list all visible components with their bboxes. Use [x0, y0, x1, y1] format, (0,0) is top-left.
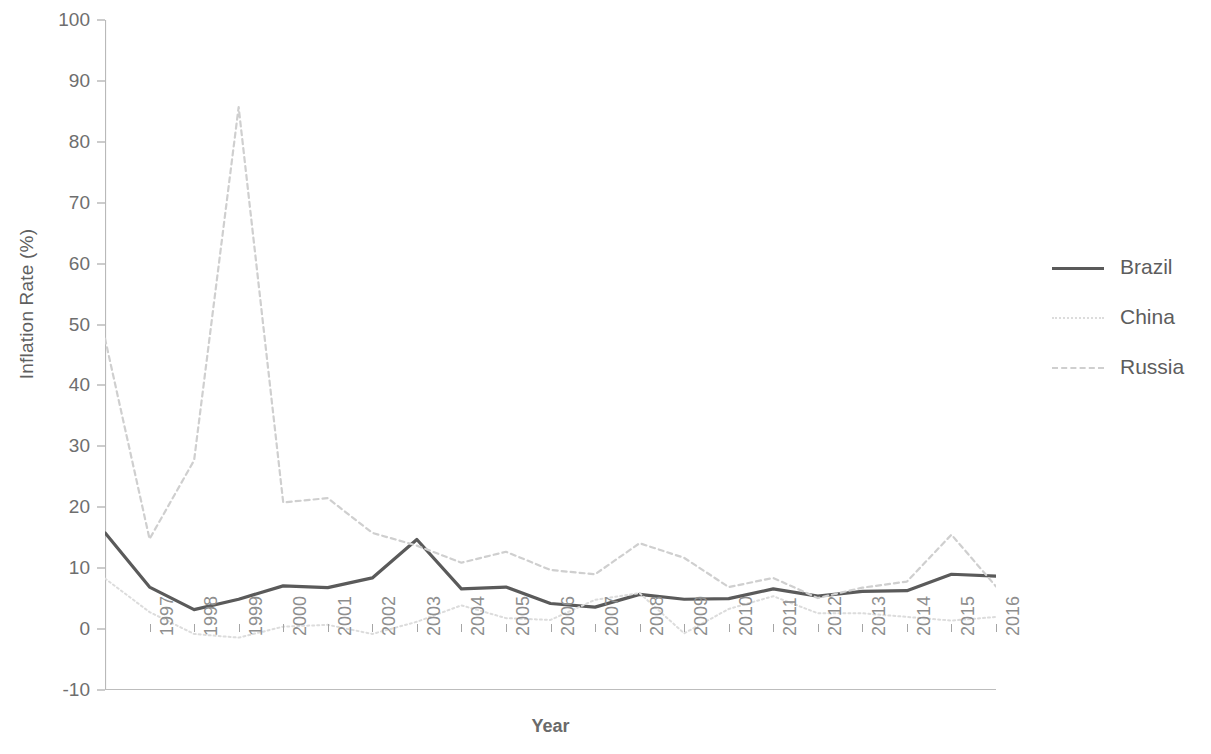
x-tick-mark-2008 [640, 624, 641, 632]
y-tick-mark-90 [97, 80, 105, 81]
x-tick-mark-2001 [328, 624, 329, 632]
y-tick-label-90: 90 [20, 70, 90, 92]
plot-area [105, 20, 996, 690]
x-tick-mark-2015 [951, 624, 952, 632]
legend-label-china: China [1120, 305, 1175, 329]
x-tick-label-1997: 1997 [157, 596, 178, 636]
x-tick-mark-2009 [684, 624, 685, 632]
y-tick-label-20: 20 [20, 496, 90, 518]
y-tick-mark-60 [97, 263, 105, 264]
x-axis-title: Year [105, 716, 996, 737]
y-tick-label-50: 50 [20, 314, 90, 336]
x-tick-label-2016: 2016 [1003, 596, 1024, 636]
x-tick-mark-2007 [595, 624, 596, 632]
x-tick-mark-2012 [818, 624, 819, 632]
series-line-russia [105, 107, 996, 598]
x-tick-mark-2002 [372, 624, 373, 632]
x-tick-label-2007: 2007 [602, 596, 623, 636]
x-tick-mark-2014 [907, 624, 908, 632]
x-tick-mark-2006 [551, 624, 552, 632]
y-tick-mark-70 [97, 202, 105, 203]
x-tick-label-2014: 2014 [914, 596, 935, 636]
x-tick-label-2001: 2001 [335, 596, 356, 636]
x-tick-label-2009: 2009 [691, 596, 712, 636]
y-tick-mark-80 [97, 141, 105, 142]
legend-label-brazil: Brazil [1120, 255, 1173, 279]
x-tick-label-2012: 2012 [825, 596, 846, 636]
x-tick-label-2003: 2003 [424, 596, 445, 636]
y-tick-label-60: 60 [20, 253, 90, 275]
x-tick-mark-2005 [506, 624, 507, 632]
y-tick-mark-100 [97, 20, 105, 21]
x-tick-mark-1997 [150, 624, 151, 632]
x-tick-label-2008: 2008 [647, 596, 668, 636]
x-tick-label-2005: 2005 [513, 596, 534, 636]
y-tick-mark-10 [97, 568, 105, 569]
y-tick-mark-30 [97, 446, 105, 447]
x-tick-label-1999: 1999 [246, 596, 267, 636]
x-tick-label-2000: 2000 [290, 596, 311, 636]
y-tick-label-10: 10 [20, 557, 90, 579]
x-tick-mark-1999 [239, 624, 240, 632]
x-tick-label-2006: 2006 [558, 596, 579, 636]
series-canvas [105, 20, 996, 690]
x-tick-label-2010: 2010 [736, 596, 757, 636]
x-tick-mark-2004 [461, 624, 462, 632]
y-tick-label-100: 100 [20, 9, 90, 31]
x-tick-mark-2000 [283, 624, 284, 632]
y-tick-mark-20 [97, 507, 105, 508]
legend-swatch-brazil [1052, 267, 1104, 270]
series-line-brazil [105, 533, 996, 610]
x-tick-label-2011: 2011 [780, 597, 801, 636]
y-tick-mark--10 [97, 690, 105, 691]
x-tick-label-2004: 2004 [468, 596, 489, 636]
y-tick-label-40: 40 [20, 374, 90, 396]
x-tick-mark-2003 [417, 624, 418, 632]
y-tick-label-80: 80 [20, 131, 90, 153]
x-tick-label-2002: 2002 [379, 596, 400, 636]
x-tick-label-2013: 2013 [869, 596, 890, 636]
x-tick-mark-2016 [996, 624, 997, 632]
y-tick-label-70: 70 [20, 192, 90, 214]
y-tick-label-30: 30 [20, 435, 90, 457]
x-tick-mark-2011 [773, 624, 774, 632]
x-tick-label-1998: 1998 [201, 596, 222, 636]
legend-label-russia: Russia [1120, 355, 1184, 379]
x-tick-mark-2010 [729, 624, 730, 632]
y-tick-label-0: 0 [20, 618, 90, 640]
y-tick-mark-50 [97, 324, 105, 325]
line-chart: Inflation Rate (%) -10010203040506070809… [0, 0, 1211, 754]
x-tick-label-2015: 2015 [958, 596, 979, 636]
y-tick-mark-40 [97, 385, 105, 386]
x-tick-mark-2013 [862, 624, 863, 632]
legend-swatch-china [1052, 317, 1104, 319]
legend-swatch-russia [1052, 367, 1104, 369]
y-tick-label--10: -10 [20, 679, 90, 701]
y-tick-mark-0 [97, 629, 105, 630]
x-tick-mark-1998 [194, 624, 195, 632]
